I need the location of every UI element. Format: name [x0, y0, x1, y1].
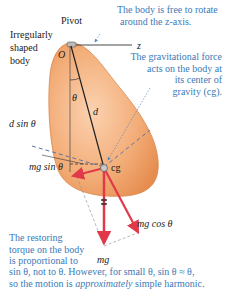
cg-label: cg — [111, 162, 120, 173]
d-sin-theta-label: d sin θ — [9, 118, 36, 129]
mg-sin-theta-label: mg sin θ — [29, 161, 63, 172]
rotation-note: The body is free to rotate around the z-… — [117, 4, 218, 27]
restoring-torque-note-continued: sin θ, not to θ. However, for small θ, s… — [9, 266, 204, 289]
body-desc-line-1: Irregularly — [10, 29, 53, 40]
body-desc-line-2: shaped — [10, 42, 38, 53]
body-desc-line-3: body — [10, 55, 30, 66]
mg-label: mg — [97, 254, 109, 265]
mg-cos-theta-label: mg cos θ — [137, 218, 172, 229]
restoring-torque-note: The restoring torque on the body is prop… — [9, 232, 84, 267]
center-of-gravity-marker — [101, 165, 108, 172]
gravity-note: The gravitational force acts on the body… — [114, 51, 222, 97]
distance-label: d — [93, 106, 98, 117]
z-axis-label: z — [137, 40, 141, 51]
origin-label: O — [58, 49, 65, 60]
pivot-label: Pivot — [61, 15, 82, 26]
theta-label: θ — [72, 92, 77, 103]
